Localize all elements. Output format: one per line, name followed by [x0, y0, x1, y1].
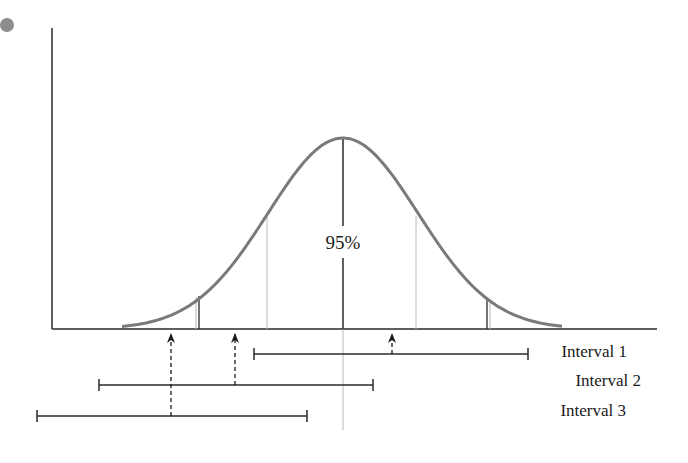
interval-1-label: Interval 1 — [561, 342, 627, 361]
interval-3: Interval 3 — [37, 334, 626, 422]
interval-3-label: Interval 3 — [560, 401, 626, 420]
bullet-icon — [0, 18, 14, 32]
interval-2: Interval 2 — [99, 334, 641, 391]
confidence-interval-diagram: 95% Interval 1 Interval 2 Interval 3 — [0, 0, 688, 463]
interval-1: Interval 1 — [254, 334, 627, 361]
interval-2-label: Interval 2 — [575, 371, 641, 390]
center-percent-label: 95% — [326, 232, 361, 253]
